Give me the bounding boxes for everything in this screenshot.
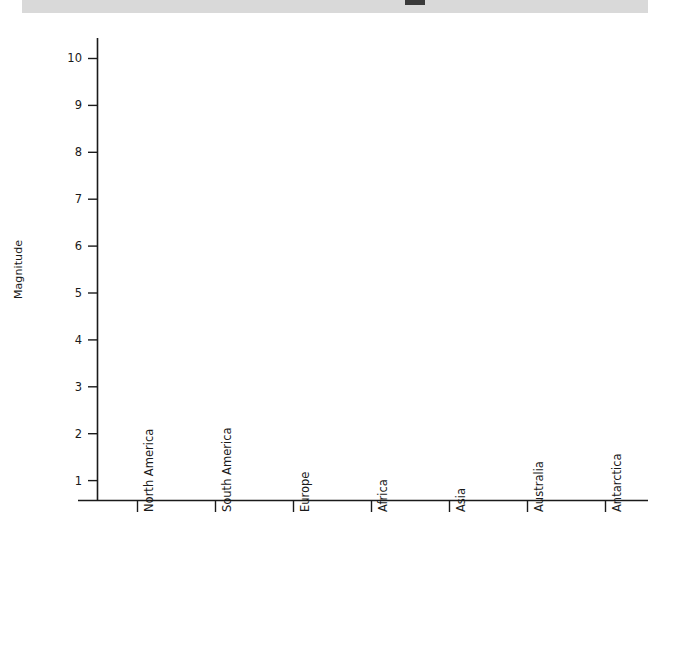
x-tick-label-africa: Africa	[377, 479, 389, 512]
y-tick-label: 6	[48, 240, 82, 252]
x-tick-label-asia: Asia	[455, 488, 467, 512]
y-tick-label: 5	[48, 287, 82, 299]
y-tick-label: 8	[48, 146, 82, 158]
x-tick-label-europe: Europe	[299, 472, 311, 512]
y-tick-label: 7	[48, 193, 82, 205]
plot-axes	[0, 0, 675, 656]
x-tick-label-australia: Australia	[533, 461, 545, 512]
y-tick-label: 4	[48, 334, 82, 346]
y-tick-label: 9	[48, 99, 82, 111]
y-tick-label: 1	[48, 475, 82, 487]
y-tick-label: 2	[48, 428, 82, 440]
chart-figure: Magnitude 10 9 8 7 6 5 4 3 2 1 North Ame…	[0, 0, 675, 656]
y-axis-ticks	[88, 59, 98, 481]
y-tick-label: 10	[48, 52, 82, 64]
x-tick-label-south-america: South America	[221, 427, 233, 512]
y-axis-title: Magnitude	[13, 230, 24, 310]
x-tick-label-north-america: North America	[143, 429, 155, 512]
y-tick-label: 3	[48, 381, 82, 393]
x-tick-label-antarctica: Antarctica	[611, 453, 623, 512]
